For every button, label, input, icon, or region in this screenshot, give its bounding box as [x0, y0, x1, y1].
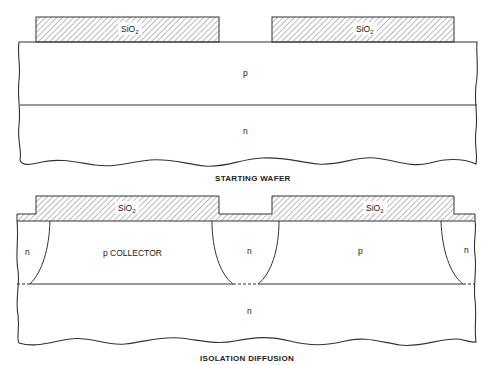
oxide-label: SiO: [366, 203, 381, 213]
panel-starting-wafer: SiO2 SiO2 p n STARTING WAFER: [18, 17, 477, 183]
wafer-outline: [18, 42, 477, 166]
label-right-isolation-n: n: [464, 245, 469, 255]
layer-p-label: p: [243, 68, 248, 78]
label-substrate-n: n: [247, 306, 252, 316]
wafer-outline: [17, 221, 476, 346]
process-diagram: SiO2 SiO2 p n STARTING WAFER SiO2 SiO2 n…: [0, 0, 492, 365]
oxide-layer: [17, 196, 475, 221]
isolation-curve-left: [30, 221, 50, 284]
label-left-isolation-n: n: [25, 247, 30, 257]
isolation-curve-mid-right: [258, 221, 279, 284]
panel-isolation-diffusion: SiO2 SiO2 n p COLLECTOR n p n n ISOLATIO…: [17, 196, 476, 363]
oxide-label: SiO: [118, 203, 133, 213]
oxide-label: SiO: [356, 24, 371, 34]
isolation-curve-right: [441, 221, 463, 284]
oxide-label: SiO: [121, 24, 136, 34]
layer-n-label: n: [243, 126, 248, 136]
isolation-curve-mid-left: [212, 221, 233, 284]
label-p-collector: p COLLECTOR: [103, 248, 162, 258]
label-mid-isolation-n: n: [247, 246, 252, 256]
caption-isolation-diffusion: ISOLATION DIFFUSION: [200, 354, 294, 363]
diagram-canvas: SiO2 SiO2 p n STARTING WAFER SiO2 SiO2 n…: [0, 0, 492, 365]
label-right-p: p: [358, 246, 363, 256]
caption-starting-wafer: STARTING WAFER: [215, 174, 291, 183]
